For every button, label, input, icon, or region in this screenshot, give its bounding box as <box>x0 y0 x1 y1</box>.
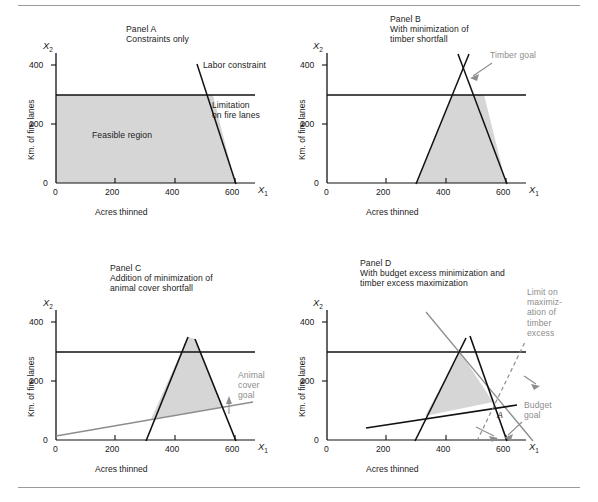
point-a-label: A <box>497 410 503 420</box>
panel-d-timber-excess-arrow-low <box>476 427 494 436</box>
panel-b: Panel B With minimization of timber shor… <box>0 0 598 251</box>
panel-d-timber-excess-arrowhead <box>531 384 540 390</box>
timber-excess-limit-label: Limit on maximiz- ation of timber excess <box>527 287 562 338</box>
panel-b-plot <box>0 0 598 251</box>
panel-d-budget-goal-line <box>426 312 533 441</box>
panel-d-timber-excess-arrow <box>524 376 536 384</box>
panel-d-budget-goal-arrow <box>508 422 522 435</box>
panel-d-feasible-region <box>425 352 493 416</box>
panel-d-timber-excess-arrowhead-low <box>489 436 498 442</box>
panel-b-feasible-region <box>416 95 506 183</box>
timber-goal-label: Timber goal <box>490 50 536 60</box>
panel-d: Panel D With budget excess minimization … <box>0 250 598 502</box>
panel-b-timber-goal-arrow <box>473 63 492 76</box>
figure-container: Panel A Constraints only Km. of fire lan… <box>0 0 598 502</box>
budget-goal-label: Budget goal <box>524 400 552 420</box>
panel-d-plot <box>0 250 598 502</box>
